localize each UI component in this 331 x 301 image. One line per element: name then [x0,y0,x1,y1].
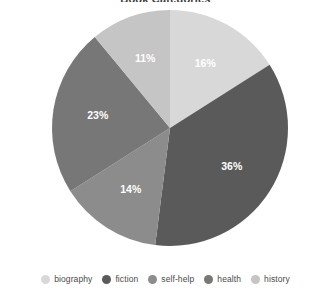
legend-item-self-help[interactable]: self-help [148,275,194,284]
pie-slice-label-history: 11% [135,52,156,64]
legend-swatch-icon [251,275,260,284]
legend-item-history[interactable]: history [251,275,290,284]
pie-chart-figure: Book Categories 16%36%14%23%11% biograph… [0,0,331,301]
pie-slice-label-health: 23% [87,109,109,121]
legend-item-label: history [264,275,290,284]
legend-item-biography[interactable]: biography [41,275,92,284]
pie-svg: 16%36%14%23%11% [0,0,331,262]
legend-item-label: fiction [115,275,138,284]
legend-swatch-icon [102,275,111,284]
legend-item-label: health [217,275,241,284]
legend-item-label: biography [54,275,92,284]
legend-item-label: self-help [161,275,194,284]
pie-slice-label-fiction: 36% [221,160,243,172]
chart-legend: biographyfictionself-helphealthhistory [0,266,331,292]
pie-slice-label-self-help: 14% [120,183,142,195]
pie-slice-label-biography: 16% [195,57,217,69]
pie-slices-group [52,10,288,246]
legend-swatch-icon [204,275,213,284]
legend-swatch-icon [148,275,157,284]
pie-plot-area: 16%36%14%23%11% [0,0,331,262]
legend-item-fiction[interactable]: fiction [102,275,138,284]
legend-swatch-icon [41,275,50,284]
legend-item-health[interactable]: health [204,275,241,284]
